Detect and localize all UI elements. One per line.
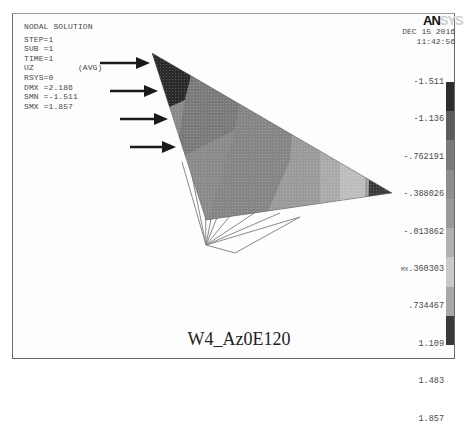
info-line: RSYS=0 bbox=[24, 73, 102, 83]
contour-shell bbox=[140, 40, 400, 240]
info-line: STEP=1 bbox=[24, 35, 102, 45]
color-scale-segment bbox=[446, 199, 454, 228]
color-scale-segment bbox=[446, 82, 454, 111]
legend-label: -.388026 bbox=[364, 190, 444, 227]
color-scale-segment bbox=[446, 170, 454, 199]
date-label: DEC 15 2016 bbox=[402, 27, 455, 37]
arrow-icon bbox=[120, 113, 168, 125]
legend-label: MX.360303 bbox=[364, 265, 444, 302]
info-line: DMX =2.186 bbox=[24, 83, 102, 93]
logo-text-faded: SYS bbox=[440, 13, 463, 28]
arrow-icon bbox=[100, 57, 150, 69]
color-scale-segment bbox=[446, 257, 454, 286]
arrow-icon bbox=[130, 141, 176, 153]
info-line: SMN =-1.511 bbox=[24, 92, 102, 102]
legend-label: 1.857 bbox=[364, 415, 444, 425]
legend-label: -.013862 bbox=[364, 228, 444, 265]
legend-label: -.762191 bbox=[364, 153, 444, 190]
color-scale-segment bbox=[446, 140, 454, 169]
ansys-logo: ANSYS bbox=[423, 13, 463, 28]
info-line: SUB =1 bbox=[24, 44, 102, 54]
logo-text: AN bbox=[423, 13, 440, 28]
info-block: NODAL SOLUTION STEP=1 SUB =1 TIME=1 UZ (… bbox=[24, 22, 102, 111]
info-line: TIME=1 bbox=[24, 54, 102, 64]
time-label: 11:42:56 bbox=[402, 37, 455, 47]
timestamp: DEC 15 2016 11:42:56 bbox=[402, 27, 455, 47]
legend-label: 1.483 bbox=[364, 377, 444, 414]
info-line: SMX =1.857 bbox=[24, 102, 102, 112]
arrow-icon bbox=[110, 85, 158, 97]
legend-labels: -1.511 -1.136 -.762191 -.388026 -.013862… bbox=[364, 78, 444, 425]
legend-label: -1.511 bbox=[364, 78, 444, 115]
info-line: UZ (AVG) bbox=[24, 63, 102, 73]
figure-caption: W4_Az0E120 bbox=[0, 329, 470, 350]
solution-title: NODAL SOLUTION bbox=[24, 22, 102, 32]
color-scale-segment bbox=[446, 228, 454, 257]
color-scale-segment bbox=[446, 111, 454, 140]
color-scale-segment bbox=[446, 287, 454, 316]
color-scale-bar bbox=[446, 82, 454, 345]
legend-label: -1.136 bbox=[364, 115, 444, 152]
